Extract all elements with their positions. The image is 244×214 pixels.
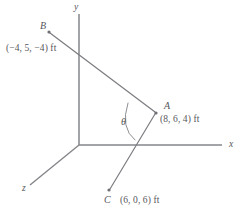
point-coordinates-B: (−4, 5, −4) ft [6,44,56,54]
angle-label-theta: θ [121,117,126,127]
angle-arc [125,103,135,140]
point-markers-group [47,30,157,191]
segment-AC [110,114,155,189]
point-label-A: A [164,101,170,111]
segments-group [50,33,155,189]
y-axis-label: y [74,3,78,13]
coordinate-diagram: y x z B (−4, 5, −4) ft A (8, 6, 4) ft C … [0,0,244,214]
point-coordinates-A: (8, 6, 4) ft [160,115,199,125]
point-label-C: C [104,195,111,205]
diagram-canvas [0,0,244,214]
point-marker-B [47,30,50,33]
point-label-B: B [40,21,46,31]
point-marker-A [154,111,157,114]
segment-BA [50,33,155,112]
z-axis-label: z [22,184,26,194]
point-coordinates-C: (6, 0, 6) ft [120,196,159,206]
z-axis-line [30,145,79,185]
point-marker-C [107,188,110,191]
x-axis-label: x [229,140,233,150]
